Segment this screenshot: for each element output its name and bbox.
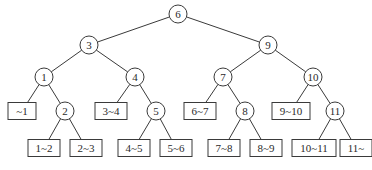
leaf-label: 1~2 — [36, 142, 53, 154]
leaf-interval-l_10_11: 10~11 — [292, 140, 336, 157]
tree-node-6: 6 — [169, 5, 187, 23]
tree-node-5: 5 — [147, 102, 165, 120]
edge-n8-l_7_8 — [229, 119, 241, 140]
edge-n8-l_8_9 — [249, 119, 261, 140]
edge-n7-l_6_7 — [206, 84, 218, 102]
node-label: 11 — [330, 105, 341, 117]
tree-node-7: 7 — [214, 68, 232, 86]
leaf-label: 3~4 — [103, 105, 120, 117]
node-label: 6 — [175, 8, 181, 20]
edge-n6-n3 — [97, 17, 169, 42]
leaf-interval-l_7_8: 7~8 — [208, 140, 240, 157]
edge-n4-l_3_4 — [117, 84, 130, 102]
tree-diagram: 6391471025811~13~46~79~101~22~34~55~67~8… — [0, 0, 372, 170]
node-label: 8 — [242, 105, 248, 117]
edge-n9-n10 — [275, 50, 305, 72]
leaf-interval-l_1: ~1 — [8, 103, 36, 120]
leaf-interval-l_1_2: 1~2 — [28, 140, 60, 157]
edge-n2-l_1_2 — [49, 119, 61, 140]
leaf-interval-l_3_4: 3~4 — [95, 103, 127, 120]
node-label: 10 — [308, 71, 320, 83]
leaf-interval-l_11: 11~ — [340, 140, 372, 157]
leaf-interval-l_5_6: 5~6 — [160, 140, 192, 157]
node-label: 4 — [132, 71, 138, 83]
leaf-interval-l_4_5: 4~5 — [118, 140, 150, 157]
edges-group — [28, 17, 352, 140]
tree-svg: 6391471025811~13~46~79~101~22~34~55~67~8… — [0, 0, 372, 170]
tree-node-9: 9 — [259, 36, 277, 54]
edge-n10-l_9_10 — [297, 85, 309, 103]
leaf-label: ~1 — [16, 105, 27, 117]
leaf-interval-l_6_7: 6~7 — [184, 103, 216, 120]
edge-n11-l_11 — [339, 119, 351, 140]
tree-node-2: 2 — [56, 102, 74, 120]
node-label: 3 — [86, 39, 92, 51]
leaf-interval-l_2_3: 2~3 — [70, 140, 102, 157]
edge-n10-n11 — [318, 85, 330, 104]
tree-node-1: 1 — [35, 68, 53, 86]
leaf-label: 9~10 — [280, 105, 303, 117]
leaf-label: 11~ — [348, 142, 365, 154]
edge-n7-n8 — [228, 85, 240, 104]
leaf-label: 8~9 — [258, 142, 275, 154]
tree-node-11: 11 — [326, 102, 344, 120]
node-label: 9 — [265, 39, 271, 51]
leaf-label: 6~7 — [192, 105, 209, 117]
tree-node-3: 3 — [80, 36, 98, 54]
leaf-interval-l_8_9: 8~9 — [250, 140, 282, 157]
edge-n6-n9 — [187, 17, 260, 42]
leaf-label: 4~5 — [126, 142, 143, 154]
leaf-label: 2~3 — [78, 142, 95, 154]
nodes-group: 6391471025811~13~46~79~101~22~34~55~67~8… — [8, 5, 372, 157]
edge-n5-l_5_6 — [160, 119, 171, 140]
edge-n3-n1 — [51, 50, 81, 72]
leaf-label: 10~11 — [300, 142, 328, 154]
leaf-interval-l_9_10: 9~10 — [272, 103, 310, 120]
node-label: 7 — [220, 71, 226, 83]
leaf-label: 5~6 — [168, 142, 185, 154]
node-label: 1 — [41, 71, 47, 83]
node-label: 5 — [153, 105, 159, 117]
tree-node-10: 10 — [304, 68, 322, 86]
tree-node-4: 4 — [126, 68, 144, 86]
edge-n3-n4 — [96, 50, 127, 72]
edge-n2-l_2_3 — [69, 119, 81, 140]
node-label: 2 — [62, 105, 68, 117]
edge-n1-l_1 — [28, 85, 40, 103]
edge-n1-n2 — [49, 85, 61, 104]
edge-n4-n5 — [140, 85, 152, 104]
edge-n9-n7 — [230, 50, 260, 72]
edge-n5-l_4_5 — [139, 119, 151, 140]
leaf-label: 7~8 — [216, 142, 233, 154]
tree-node-8: 8 — [236, 102, 254, 120]
edge-n11-l_10_11 — [319, 119, 331, 140]
